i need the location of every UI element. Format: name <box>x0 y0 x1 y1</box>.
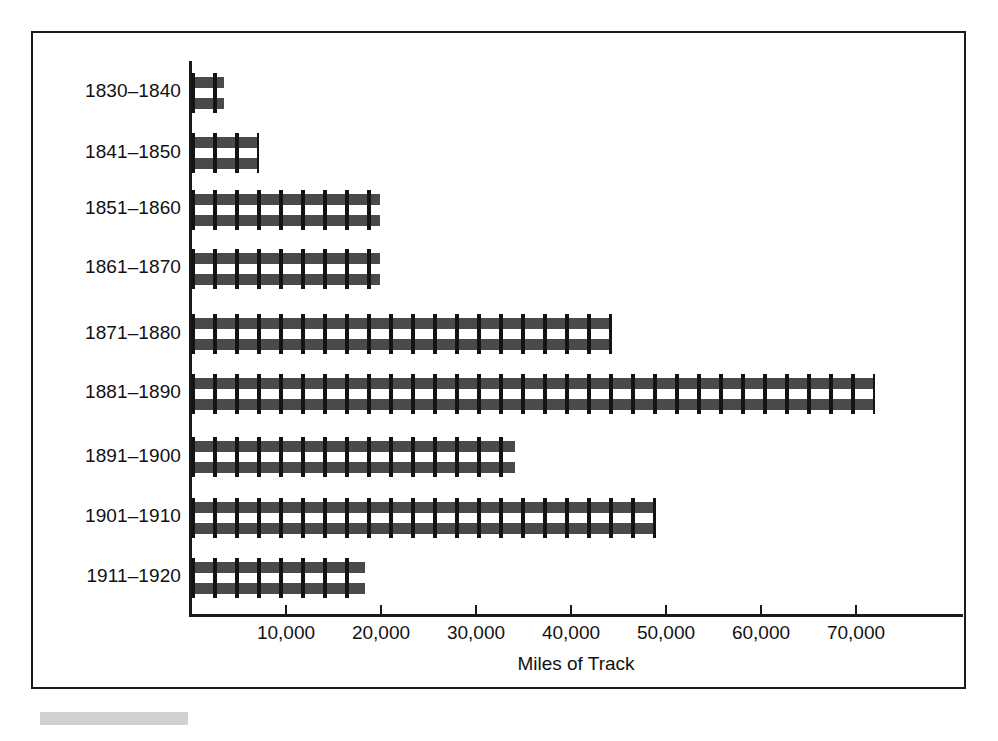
bar-1 <box>191 136 259 170</box>
y-axis-label-6: 1891–1900 <box>55 445 181 469</box>
bar-ties <box>191 73 224 113</box>
bar-8 <box>191 561 365 595</box>
x-axis-title: Miles of Track <box>189 653 963 675</box>
railroad-track-bar-chart-figure: 1830–1840 1841–1850 1851–1860 1861–1870 … <box>0 0 998 741</box>
category-label: 1871–1880 <box>61 322 181 344</box>
scan-artifact-smudge <box>40 712 188 725</box>
y-axis-label-4: 1871–1880 <box>55 322 181 346</box>
bar-ties <box>191 249 380 289</box>
x-axis-tick <box>760 605 762 616</box>
bar-ties <box>191 190 380 230</box>
plot-area: 1830–1840 1841–1850 1851–1860 1861–1870 … <box>0 0 998 741</box>
x-axis-line <box>189 614 963 617</box>
bar-6 <box>191 440 515 474</box>
x-axis-tick-label: 70,000 <box>796 622 916 644</box>
category-label: 1891–1900 <box>61 445 181 467</box>
category-label: 1851–1860 <box>61 197 181 219</box>
bar-7 <box>191 501 656 535</box>
category-label: 1841–1850 <box>61 141 181 163</box>
y-axis-label-8: 1911–1920 <box>55 565 181 589</box>
x-axis-tick <box>380 605 382 616</box>
category-label: 1861–1870 <box>61 256 181 278</box>
x-axis-tick <box>570 605 572 616</box>
bar-2 <box>191 193 380 227</box>
y-axis-label-1: 1841–1850 <box>55 141 181 165</box>
bar-ties <box>191 498 656 538</box>
bar-3 <box>191 252 380 286</box>
x-axis-tick <box>665 605 667 616</box>
bar-ties <box>191 558 365 598</box>
x-axis-tick <box>285 605 287 616</box>
y-axis-label-0: 1830–1840 <box>55 80 181 104</box>
bar-4 <box>191 317 612 351</box>
bar-ties <box>191 133 259 173</box>
bar-5 <box>191 377 875 411</box>
bar-ties <box>191 314 612 354</box>
y-axis-label-7: 1901–1910 <box>55 505 181 529</box>
x-axis-tick <box>475 605 477 616</box>
y-axis-label-2: 1851–1860 <box>55 197 181 221</box>
category-label: 1901–1910 <box>61 505 181 527</box>
y-axis-label-5: 1881–1890 <box>55 381 181 405</box>
bar-ties <box>191 374 875 414</box>
x-axis-tick <box>855 605 857 616</box>
category-label: 1881–1890 <box>61 381 181 403</box>
bar-0 <box>191 76 224 110</box>
category-label: 1830–1840 <box>61 80 181 102</box>
y-axis-label-3: 1861–1870 <box>55 256 181 280</box>
bar-ties <box>191 437 515 477</box>
category-label: 1911–1920 <box>61 565 181 587</box>
